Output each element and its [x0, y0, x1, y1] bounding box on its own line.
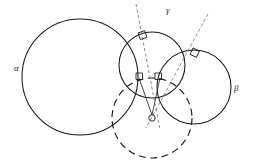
right-angle-gamma-beta-upper	[190, 48, 199, 57]
label-gamma: γ	[166, 6, 170, 15]
label-alpha: α	[14, 64, 19, 73]
circle-beta	[157, 50, 231, 124]
circle-alpha	[22, 19, 138, 135]
circle-radical-dashed	[112, 78, 192, 158]
geometry-figure: α γ β	[0, 0, 256, 166]
figure-canvas	[0, 0, 256, 166]
point-o-marker	[149, 115, 155, 121]
radical-axis-alpha-gamma	[136, 4, 160, 130]
label-beta: β	[234, 84, 238, 93]
radical-axis-gamma-beta	[146, 14, 208, 128]
